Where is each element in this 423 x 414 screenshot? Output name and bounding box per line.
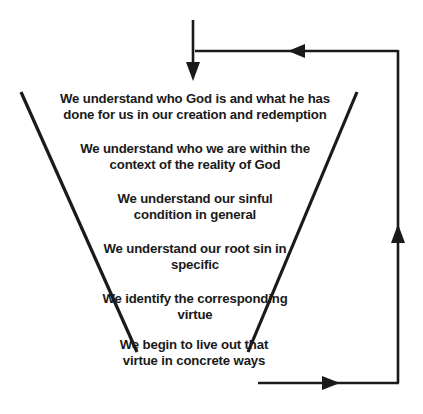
funnel-stage-2: We understand who we are within the cont… (72, 141, 318, 173)
funnel-stage-4: We understand our root sin in specific (100, 241, 290, 273)
funnel-diagram: We understand who God is and what he has… (0, 0, 423, 414)
return-up-arrowhead-icon (391, 224, 405, 243)
entry-down-arrowhead-icon (186, 62, 200, 81)
exit-right-arrowhead-icon (322, 376, 340, 390)
funnel-stage-5: We identify the corresponding virtue (100, 291, 290, 323)
funnel-stage-3: We understand our sinful condition in ge… (90, 191, 300, 223)
return-left-arrowhead-icon (288, 44, 305, 58)
funnel-stage-1: We understand who God is and what he has… (52, 91, 338, 123)
funnel-stage-6: We begin to live out that virtue in conc… (108, 337, 280, 369)
